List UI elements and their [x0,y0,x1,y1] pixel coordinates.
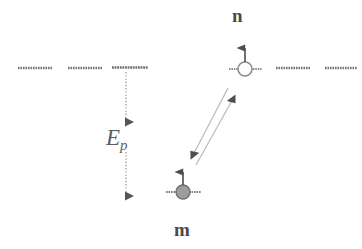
transition-arrow-up [196,97,234,165]
energy-symbol: E [106,125,120,150]
energy-gap-label: Ep [106,126,128,153]
hole-circle-icon [238,62,252,76]
site-label-m: m [174,220,190,239]
electron-particle [176,172,190,199]
diagram-canvas [0,0,362,249]
transition-arrow-down [192,88,228,157]
energy-level-diagram: n m Ep [0,0,362,249]
site-label-n: n [232,6,243,25]
transition-arrows [192,88,234,165]
energy-subscript: p [120,137,128,153]
upper-band-levels [18,68,357,69]
electron-circle-icon [176,185,190,199]
hole-particle [238,48,252,76]
